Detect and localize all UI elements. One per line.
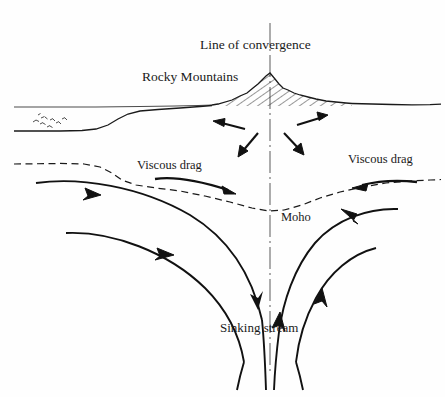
moho-dashed-boundary (14, 164, 441, 212)
label-moho: Moho (281, 211, 311, 224)
surface-line-right (352, 104, 441, 105)
label-viscous-drag-left: Viscous drag (137, 159, 202, 172)
viscous-drag-arrow-right (352, 181, 417, 191)
label-viscous-drag-right: Viscous drag (348, 153, 413, 166)
divergence-arrow-lower-right (284, 133, 304, 155)
geological-cross-section-figure: Line of convergence Rocky Mountains Visc… (0, 0, 445, 397)
flow-arrowhead-left-descending (250, 291, 263, 310)
mantle-flow-line-right-lower (296, 248, 376, 362)
label-rocky-mountains: Rocky Mountains (142, 70, 238, 84)
mantle-flow-line-left-lower (66, 233, 244, 362)
mantle-flow-line-right-upper (272, 209, 398, 332)
sea-level-line (14, 105, 212, 107)
viscous-drag-arrow-left (155, 178, 236, 194)
divergence-arrow-lower-left (238, 133, 258, 157)
label-sinking-stream: Sinking stream (220, 321, 298, 334)
diagram-canvas (0, 0, 445, 397)
sediment-symbol-cluster (33, 114, 67, 128)
divergence-arrow-upper-left (213, 119, 245, 130)
divergence-arrow-upper-right (297, 112, 328, 125)
label-line-of-convergence: Line of convergence (200, 38, 311, 52)
ocean-floor-profile (14, 106, 212, 132)
